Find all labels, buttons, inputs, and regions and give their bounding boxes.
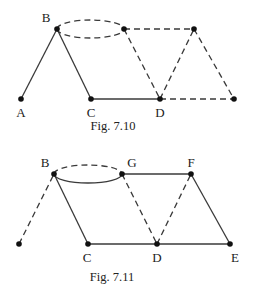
node-l [16,241,22,247]
edge-b-c [57,29,91,99]
node-label-f: F [187,155,194,170]
loop-edge-lower [57,29,124,38]
figure-caption: Fig. 7.11 [90,270,134,284]
loop-edge-upper [57,20,124,29]
edge-d-f [157,174,191,244]
edge-g-d [122,174,157,244]
figure-caption: Fig. 7.10 [91,119,136,133]
node-label-d: D [155,105,164,120]
edge-l-b [19,174,54,244]
edge-a-b [21,29,57,99]
node-label-c: C [87,105,96,120]
loop-edge-upper [54,165,122,174]
loop-edge-lower [54,174,122,183]
node-c [88,96,94,102]
figure-7-11: BGFCDEFig. 7.11 [16,155,239,284]
node-label-b: B [42,10,51,25]
edge-t2-r [194,29,234,99]
figure-7-10: ABCDFig. 7.10 [16,10,236,133]
node-label-g: G [127,155,136,170]
node-label-a: A [16,105,26,120]
node-f [188,171,194,177]
node-d [154,241,160,247]
graph-diagram: ABCDFig. 7.10 BGFCDEFig. 7.11 [0,0,253,295]
node-d [157,96,163,102]
node-e [227,241,233,247]
node-b [54,26,60,32]
node-b [51,171,57,177]
node-label-d: D [152,250,161,265]
node-g [119,171,125,177]
node-label-e: E [231,250,239,265]
node-r [231,96,237,102]
node-label-c: C [83,250,92,265]
node-label-b: B [41,155,50,170]
edge-f-e [191,174,230,244]
node-t2 [191,26,197,32]
edge-b-c [54,174,88,244]
edge-t1-d [124,29,160,99]
node-t1 [121,26,127,32]
edge-d-t2 [160,29,194,99]
node-a [18,96,24,102]
node-c [85,241,91,247]
